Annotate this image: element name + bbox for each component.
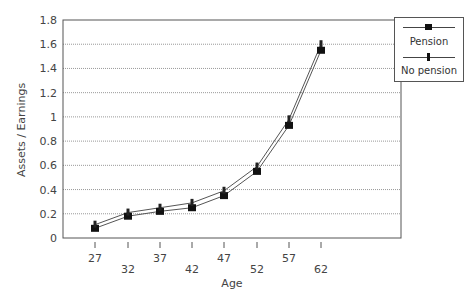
diamond-marker-icon <box>191 199 194 206</box>
legend-pension-label: Pension <box>395 36 463 47</box>
y-axis-title: Assets / Earnings <box>15 83 28 177</box>
square-marker-icon <box>285 122 293 129</box>
x-tick-label: 57 <box>282 252 296 265</box>
y-tick-label: 1.4 <box>40 62 58 75</box>
x-tick-label: 42 <box>185 263 199 276</box>
y-tick-label: 0.8 <box>40 135 58 148</box>
legend: Pension No pension <box>394 17 464 82</box>
y-tick-label: 0 <box>50 232 57 245</box>
x-tick-label: 47 <box>217 252 231 265</box>
diamond-marker-icon <box>288 115 291 122</box>
x-tick-label: 37 <box>153 252 167 265</box>
y-axis-ticks: 00.20.40.60.811.21.41.61.8 <box>40 14 58 245</box>
plot-frame <box>63 20 401 238</box>
y-tick-label: 1 <box>50 111 57 124</box>
diamond-marker-icon <box>94 221 97 228</box>
diamond-marker-icon <box>256 163 259 170</box>
x-axis-ticks: 2732374247525762 <box>88 242 328 276</box>
y-tick-label: 0.2 <box>40 208 58 221</box>
x-tick-label: 52 <box>250 263 264 276</box>
diamond-marker-icon <box>320 40 323 47</box>
gridlines <box>63 44 401 214</box>
y-tick-label: 0.6 <box>40 159 58 172</box>
diamond-marker-icon <box>223 187 226 194</box>
diamond-marker-icon <box>427 53 430 61</box>
data-series <box>91 40 325 232</box>
x-tick-label: 32 <box>121 263 135 276</box>
diamond-marker-icon <box>127 209 130 216</box>
legend-no-pension-label: No pension <box>395 65 463 76</box>
square-marker-icon <box>425 24 432 30</box>
x-axis-title: Age <box>221 277 243 290</box>
y-tick-label: 0.4 <box>40 184 58 197</box>
series-line-no-pension <box>95 44 321 224</box>
y-tick-label: 1.2 <box>40 87 58 100</box>
y-tick-label: 1.8 <box>40 14 58 27</box>
series-line-pension <box>95 50 321 228</box>
x-tick-label: 27 <box>88 252 102 265</box>
y-tick-label: 1.6 <box>40 38 58 51</box>
diamond-marker-icon <box>159 204 162 211</box>
x-tick-label: 62 <box>314 263 328 276</box>
square-marker-icon <box>317 47 325 54</box>
